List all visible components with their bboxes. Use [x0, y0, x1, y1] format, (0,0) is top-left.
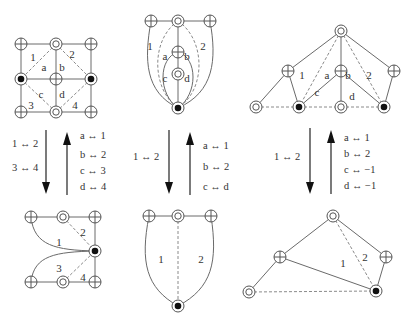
circled-bullet-icon [378, 101, 390, 113]
circled-plus-icon [50, 73, 62, 85]
circled-plus-icon [25, 276, 37, 288]
dashed-edge [333, 216, 376, 291]
double-circle-icon [57, 276, 69, 288]
circled-plus-icon [15, 106, 27, 118]
right-transition: 1 ↔ 2 a ↔ 1 b ↔ 2 c ↔ −1 d ↔ −1 [274, 128, 376, 194]
map-label: a ↔ 1 [344, 132, 370, 143]
circled-bullet-icon [172, 102, 184, 114]
diagram-canvas: 12abcd3412abcd1ab2cd21341212 1 ↔ 2 3 ↔ 4… [0, 0, 410, 322]
labels-layer: 12abcd3412abcd1ab2cd21341212 [28, 40, 372, 283]
region-label: a [163, 50, 168, 62]
region-label: 1 [158, 253, 164, 265]
circled-plus-icon [274, 251, 286, 263]
region-label: 3 [56, 262, 62, 274]
map-label: 1 ↔ 2 [133, 151, 159, 162]
double-circle-icon [57, 211, 69, 223]
circled-plus-icon [25, 211, 37, 223]
region-label: 2 [362, 251, 368, 263]
circled-bullet-icon [172, 300, 184, 312]
map-label: a ↔ 1 [203, 140, 229, 151]
region-label: a [325, 69, 330, 81]
circled-plus-icon [85, 106, 97, 118]
circled-plus-icon [380, 251, 392, 263]
region-label: a [42, 61, 47, 73]
top-middle-curves [148, 21, 214, 108]
map-label: d ↔ 4 [80, 181, 107, 192]
circled-bullet-icon [89, 245, 101, 257]
circled-bullet-icon [370, 285, 382, 297]
circled-plus-icon [143, 210, 155, 222]
region-label: d [349, 90, 355, 102]
region-label: 4 [80, 271, 86, 283]
map-label: b ↔ 2 [203, 161, 229, 172]
circled-plus-icon [15, 38, 27, 50]
map-label: c ↔ 3 [80, 165, 106, 176]
down-arrowhead-icon [306, 182, 314, 194]
map-label: a ↔ 1 [80, 130, 106, 141]
circled-plus-icon [172, 46, 184, 58]
circled-plus-icon [85, 38, 97, 50]
region-label: 2 [80, 226, 86, 238]
double-circle-icon [172, 15, 184, 27]
up-arrowhead-icon [327, 130, 335, 143]
region-label: c [39, 88, 44, 100]
map-label: b ↔ 2 [80, 149, 106, 160]
double-circle-icon [327, 210, 339, 222]
double-circle-icon [172, 68, 184, 80]
map-label: d ↔ −1 [344, 180, 376, 191]
region-label: 2 [200, 40, 206, 52]
up-arrowhead-icon [63, 132, 71, 145]
double-circle-icon [335, 101, 347, 113]
region-label: b [345, 69, 351, 81]
circled-plus-icon [89, 211, 101, 223]
region-label: c [315, 86, 320, 98]
region-label: 3 [28, 99, 34, 111]
circled-plus-icon [205, 210, 217, 222]
region-label: 1 [147, 40, 153, 52]
region-label: 1 [299, 69, 305, 81]
dashed-edge [21, 44, 56, 79]
edge [288, 31, 341, 71]
double-circle-icon [250, 101, 262, 113]
map-label: c ↔ d [203, 181, 229, 192]
double-circle-icon [243, 286, 255, 298]
edge [333, 216, 386, 257]
middle-transition: 1 ↔ 2 a ↔ 1 b ↔ 2 c ↔ d [133, 130, 229, 195]
circled-bullet-icon [85, 73, 97, 85]
double-circle-icon [50, 106, 62, 118]
circled-plus-icon [204, 15, 216, 27]
region-label: 2 [198, 253, 204, 265]
region-label: 4 [72, 99, 78, 111]
map-label: 3 ↔ 4 [12, 162, 39, 173]
circled-plus-icon [145, 15, 157, 27]
edge [256, 71, 288, 107]
left-transition: 1 ↔ 2 3 ↔ 4 a ↔ 1 b ↔ 2 c ↔ 3 d ↔ 4 [12, 130, 107, 195]
circled-bullet-icon [293, 101, 305, 113]
double-circle-icon [335, 25, 347, 37]
circled-bullet-icon [15, 73, 27, 85]
region-label: c [163, 72, 168, 84]
double-circle-icon [50, 38, 62, 50]
region-label: 1 [30, 51, 36, 63]
edge [299, 71, 341, 107]
circled-plus-icon [282, 65, 294, 77]
region-label: 2 [366, 69, 372, 81]
region-label: 1 [56, 236, 62, 248]
region-label: b [184, 50, 190, 62]
region-label: d [59, 88, 65, 100]
up-arrowhead-icon [186, 132, 194, 145]
map-label: 1 ↔ 2 [12, 138, 38, 149]
region-label: b [59, 61, 65, 73]
region-label: 2 [69, 48, 75, 60]
region-label: d [184, 72, 190, 84]
double-circle-icon [172, 210, 184, 222]
down-arrowhead-icon [42, 182, 50, 194]
dashed-edge [249, 291, 376, 292]
map-label: 1 ↔ 2 [274, 151, 300, 162]
circled-plus-icon [89, 276, 101, 288]
edge [341, 31, 394, 71]
circled-plus-icon [388, 65, 400, 77]
edge [249, 257, 280, 292]
map-label: c ↔ −1 [344, 164, 376, 175]
dashed-edge [299, 31, 341, 107]
